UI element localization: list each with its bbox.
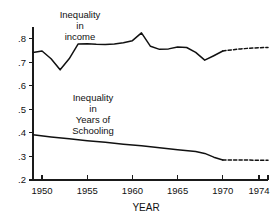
y-tick-label: .5 [18, 104, 26, 115]
y-tick-label: .3 [18, 151, 26, 162]
series-line-2 [33, 135, 223, 160]
y-tick-label: .7 [18, 57, 26, 68]
x-tick-label: 1970 [212, 185, 233, 196]
x-axis-tick-labels: 195019551960196519701974 [31, 185, 269, 196]
x-tick-label: 1950 [31, 185, 52, 196]
x-axis-title: YEAR [132, 202, 159, 213]
x-axis-ticks [42, 175, 268, 180]
series-line-1 [223, 47, 268, 51]
annotation-schooling-label: Inequality in Years of Schooling [55, 92, 131, 136]
chart-container: .2.3.4.5.6.7.8 195019551960196519701974 … [0, 0, 277, 218]
x-tick-label: 1974 [248, 185, 269, 196]
y-tick-label: .4 [18, 127, 26, 138]
annotation-income-label: Inequality in income [42, 9, 118, 42]
y-axis-tick-labels: .2.3.4.5.6.7.8 [18, 33, 26, 185]
y-tick-label: .8 [18, 33, 26, 44]
x-tick-label: 1955 [77, 185, 98, 196]
y-tick-label: .2 [18, 174, 26, 185]
x-tick-label: 1965 [167, 185, 188, 196]
y-tick-label: .6 [18, 80, 26, 91]
x-tick-label: 1960 [122, 185, 143, 196]
